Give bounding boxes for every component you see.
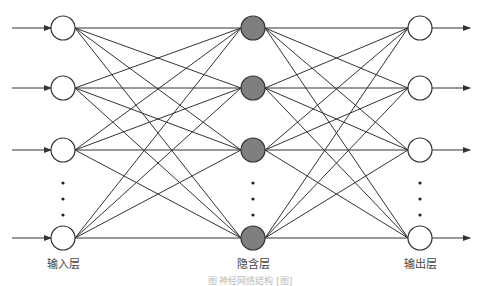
input-node (51, 16, 75, 40)
output-node (408, 138, 432, 162)
connections (75, 28, 408, 238)
neural-network-diagram (0, 0, 483, 286)
io-arrows (12, 28, 470, 238)
output-node (408, 226, 432, 250)
output-layer-label: 输出层 (404, 255, 437, 271)
input-node (51, 138, 75, 162)
output-node (408, 16, 432, 40)
hidden-node (241, 138, 265, 162)
ellipsis-dot (418, 213, 421, 216)
hidden-layer-label: 隐含层 (237, 255, 270, 271)
ellipsis-dot (61, 213, 64, 216)
ellipsis-dot (418, 197, 421, 200)
hidden-node (241, 16, 265, 40)
ellipsis-dot (61, 181, 64, 184)
ellipsis-dot (61, 197, 64, 200)
nodes (51, 16, 432, 250)
input-node (51, 226, 75, 250)
ellipsis-dot (418, 181, 421, 184)
ellipsis-dot (251, 213, 254, 216)
ellipsis-dot (251, 181, 254, 184)
hidden-node (241, 76, 265, 100)
figure-caption: 图 神经网络结构 [图] (208, 274, 293, 286)
output-node (408, 76, 432, 100)
input-node (51, 76, 75, 100)
ellipsis-dot (251, 197, 254, 200)
hidden-node (241, 226, 265, 250)
input-layer-label: 输入层 (47, 255, 80, 271)
